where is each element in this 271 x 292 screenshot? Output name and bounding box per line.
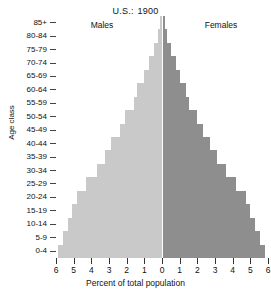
y-axis-tick-labels: 85+80-8475-7970-7465-6960-6455-5950-5445… (0, 16, 56, 258)
x-axis-tick-labels: 6543210123456 (0, 265, 271, 277)
y-axis-tick-row: 80-84 (0, 29, 56, 42)
bar-male (134, 97, 162, 110)
y-axis-tick-label: 55-59 (27, 99, 50, 107)
y-axis-tick-label: 20-24 (27, 193, 50, 201)
bar-male (137, 83, 162, 96)
y-axis-tick-label: 50-54 (27, 113, 50, 121)
y-axis-tick-label: 40-44 (27, 140, 50, 148)
y-axis-tick-row: 0-4 (0, 244, 56, 257)
bar-female (162, 137, 210, 150)
bar-female (162, 124, 203, 137)
bar-female (162, 43, 171, 56)
y-axis-tick-label: 65-69 (27, 72, 50, 80)
y-axis-tick-row: 5-9 (0, 231, 56, 244)
y-axis-tick-label: 80-84 (27, 32, 50, 40)
x-axis-tick-mark (233, 258, 234, 264)
x-axis-tick-mark (56, 258, 57, 264)
y-axis-tick-row: 50-54 (0, 110, 56, 123)
y-axis-tick-label: 45-49 (27, 126, 50, 134)
bar-male (111, 137, 162, 150)
y-axis-tick-row: 25-29 (0, 177, 56, 190)
chart-title: U.S.:1900 (0, 6, 271, 16)
x-axis-tick-mark (91, 258, 92, 264)
x-axis-tick-mark (162, 258, 163, 264)
bar-male (105, 150, 162, 163)
bar-female (162, 110, 197, 123)
bar-female (162, 56, 176, 69)
x-axis-tick-mark (74, 258, 75, 264)
y-axis-tick-row: 70-74 (0, 56, 56, 69)
y-axis-tick-row: 45-49 (0, 124, 56, 137)
bar-male (68, 218, 162, 231)
bar-male (97, 164, 162, 177)
x-axis-tick-mark (250, 258, 251, 264)
chart-title-year: 1900 (138, 6, 159, 16)
y-axis-tick-label: 85+ (33, 19, 50, 27)
y-axis-tick-label: 60-64 (27, 86, 50, 94)
x-axis-tick-mark (197, 258, 198, 264)
x-axis-tick-mark (144, 258, 145, 264)
y-axis-tick-label: 70-74 (27, 59, 50, 67)
bar-female (162, 204, 250, 217)
y-axis-tick-row: 65-69 (0, 70, 56, 83)
bar-female (162, 97, 189, 110)
x-axis-title: Percent of total population (0, 278, 271, 288)
population-pyramid-chart: U.S.:1900 Males Females Age class 85+80-… (0, 0, 271, 292)
y-axis-tick-row: 60-64 (0, 83, 56, 96)
plot-area (56, 16, 268, 258)
x-axis-tick-label: 6 (258, 265, 271, 275)
y-axis-tick-label: 35-39 (27, 153, 50, 161)
bar-male (86, 177, 162, 190)
bar-female (162, 218, 255, 231)
bar-male (149, 56, 162, 69)
y-axis-tick-label: 10-14 (27, 220, 50, 228)
y-axis-tick-row: 20-24 (0, 191, 56, 204)
bar-female (162, 245, 265, 258)
x-axis-tick-mark (215, 258, 216, 264)
y-axis-tick-row: 30-34 (0, 164, 56, 177)
bar-female (162, 29, 167, 42)
y-axis-tick-label: 5-9 (35, 234, 50, 242)
bar-male (125, 110, 162, 123)
center-axis-line (162, 16, 163, 258)
bar-male (144, 70, 162, 83)
x-axis-tick-mark (180, 258, 181, 264)
bar-male (63, 231, 162, 244)
y-axis-tick-label: 30-34 (27, 167, 50, 175)
bar-female (162, 164, 226, 177)
y-axis-tick-row: 15-19 (0, 204, 56, 217)
bar-male (58, 245, 162, 258)
x-axis-ticks (56, 258, 268, 265)
y-axis-tick-label: 0-4 (35, 247, 50, 255)
bar-male (77, 191, 162, 204)
bar-female (162, 231, 260, 244)
bar-female (162, 177, 236, 190)
y-axis-tick-row: 75-79 (0, 43, 56, 56)
y-axis-tick-row: 35-39 (0, 150, 56, 163)
bar-female (162, 150, 217, 163)
chart-title-region: U.S.: (113, 6, 134, 16)
x-axis-tick-mark (268, 258, 269, 264)
bar-female (162, 191, 246, 204)
bar-male (72, 204, 162, 217)
y-axis-tick-label: 75-79 (27, 46, 50, 54)
y-axis-tick-row: 10-14 (0, 218, 56, 231)
y-axis-tick-row: 85+ (0, 16, 56, 29)
x-axis-tick-mark (127, 258, 128, 264)
bar-female (162, 70, 180, 83)
x-axis-tick-mark (109, 258, 110, 264)
y-axis-tick-row: 55-59 (0, 97, 56, 110)
y-axis-tick-label: 25-29 (27, 180, 50, 188)
y-axis-tick-row: 40-44 (0, 137, 56, 150)
y-axis-tick-label: 15-19 (27, 207, 50, 215)
bar-female (162, 83, 186, 96)
bar-male (120, 124, 162, 137)
